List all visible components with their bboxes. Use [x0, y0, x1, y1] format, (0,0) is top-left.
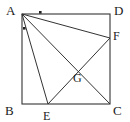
point-label-e: E: [43, 110, 50, 122]
point-label-f: F: [113, 30, 120, 42]
geometry-figure: A B C D E F G: [0, 0, 130, 122]
inner-segments: [22, 14, 110, 104]
vertex-label-c: C: [113, 104, 122, 117]
segment-af: [22, 14, 110, 38]
vertex-label-d: D: [114, 4, 123, 17]
point-label-g: G: [73, 72, 82, 84]
angle-tick-left-icon: [23, 27, 26, 30]
vertex-label-b: B: [5, 104, 14, 117]
angle-tick-top-icon: [39, 11, 42, 14]
vertex-label-a: A: [6, 4, 15, 17]
geometry-canvas: [0, 0, 130, 122]
